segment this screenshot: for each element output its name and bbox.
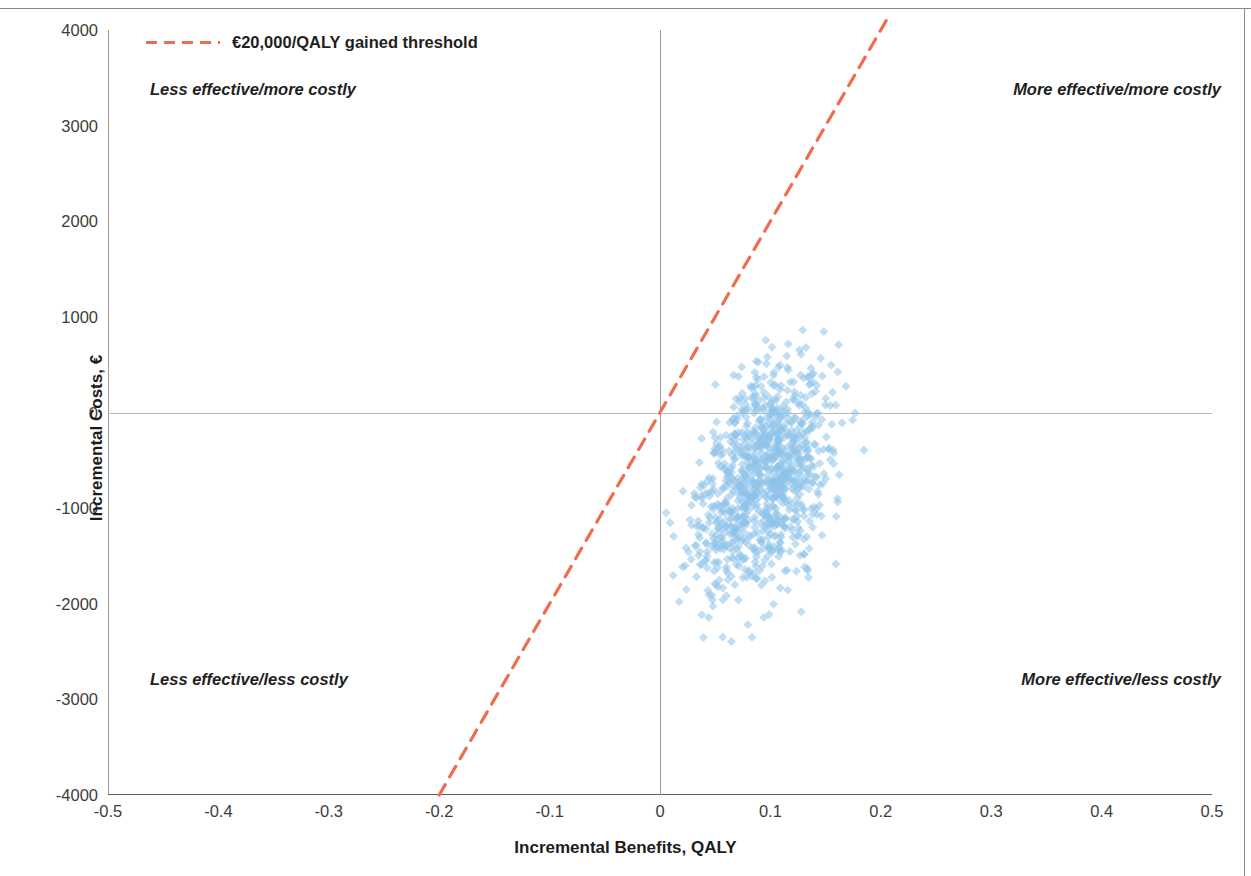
- page-frame-right-border: [1244, 8, 1245, 876]
- scatter-point: [682, 585, 691, 594]
- x-tick-label: 0.4: [1090, 802, 1113, 821]
- legend-threshold-label: €20,000/QALY gained threshold: [232, 33, 478, 52]
- legend: €20,000/QALY gained threshold: [146, 33, 478, 52]
- scatter-point: [737, 363, 746, 372]
- y-tick-label: -1000: [8, 499, 98, 518]
- y-tick-label: 4000: [8, 21, 98, 40]
- scatter-point: [832, 512, 841, 521]
- y-tick-label: 3000: [8, 116, 98, 135]
- scatter-point: [831, 560, 840, 569]
- scatter-point: [662, 508, 671, 517]
- scatter-point: [687, 501, 696, 510]
- scatter-point: [747, 633, 756, 642]
- scatter-point: [848, 416, 857, 425]
- scatter-point: [769, 600, 778, 609]
- scatter-point: [776, 584, 785, 593]
- x-tick-label: 0.1: [759, 802, 782, 821]
- scatter-point: [699, 633, 708, 642]
- scatter-point: [816, 354, 825, 363]
- scatter-point: [834, 340, 843, 349]
- scatter-point: [782, 352, 791, 361]
- y-tick-label: -2000: [8, 594, 98, 613]
- y-tick-label: 2000: [8, 212, 98, 231]
- scatter-point: [851, 409, 860, 418]
- y-tick-label: -3000: [8, 690, 98, 709]
- scatter-point: [692, 572, 701, 581]
- scatter-point: [783, 586, 792, 595]
- x-axis-title: Incremental Benefits, QALY: [0, 838, 1251, 858]
- y-tick-label: 1000: [8, 307, 98, 326]
- scatter-point: [678, 487, 687, 496]
- quadrant-label-top-left: Less effective/more costly: [150, 80, 356, 99]
- scatter-point: [818, 531, 827, 540]
- scatter-point: [669, 571, 678, 580]
- scatter-point: [727, 637, 736, 646]
- scatter-point: [797, 607, 806, 616]
- y-axis-tick-labels: -4000-3000-2000-100001000200030004000: [0, 30, 98, 795]
- scatter-point: [819, 327, 828, 336]
- x-tick-label: 0.5: [1201, 802, 1224, 821]
- x-tick-label: -0.3: [315, 802, 343, 821]
- scatter-point: [666, 518, 675, 527]
- x-tick-label: -0.4: [204, 802, 232, 821]
- scatter-point: [822, 433, 831, 442]
- x-tick-label: -0.5: [94, 802, 122, 821]
- scatter-point: [792, 567, 801, 576]
- scatter-point: [743, 620, 752, 629]
- x-tick-label: 0.2: [869, 802, 892, 821]
- scatter-point: [695, 458, 704, 467]
- scatter-point: [718, 633, 727, 642]
- scatter-point: [763, 353, 772, 362]
- x-tick-label: 0: [655, 802, 664, 821]
- scatter-point: [687, 555, 696, 564]
- page-frame-top-border: [0, 8, 1251, 9]
- scatter-point: [786, 547, 795, 556]
- x-axis-tick-labels: -0.5-0.4-0.3-0.2-0.100.10.20.30.40.5: [108, 802, 1212, 830]
- scatter-point: [730, 580, 739, 589]
- y-axis-title: Incremental Costs, €: [87, 355, 107, 521]
- scatter-point: [838, 418, 847, 427]
- scatter-point: [675, 597, 684, 606]
- quadrant-label-bottom-right: More effective/less costly: [1021, 670, 1221, 689]
- scatter-point: [827, 420, 836, 429]
- scatter-point: [831, 401, 840, 410]
- scatter-point: [818, 372, 827, 381]
- scatter-point: [711, 380, 720, 389]
- scatter-point: [784, 340, 793, 349]
- scatter-point: [697, 434, 706, 443]
- scatter-point: [734, 595, 743, 604]
- quadrant-label-top-right: More effective/more costly: [1013, 80, 1221, 99]
- scatter-point: [712, 417, 721, 426]
- scatter-point: [783, 386, 792, 395]
- scatter-point: [767, 560, 776, 569]
- scatter-point: [833, 367, 842, 376]
- cost-effectiveness-plane-figure: -4000-3000-2000-100001000200030004000 -0…: [0, 0, 1251, 876]
- x-tick-label: -0.2: [425, 802, 453, 821]
- scatter-point: [767, 343, 776, 352]
- scatter-point: [859, 445, 868, 454]
- y-tick-label: 0: [8, 403, 98, 422]
- x-tick-label: -0.1: [535, 802, 563, 821]
- y-tick-label: -4000: [8, 786, 98, 805]
- quadrant-label-bottom-left: Less effective/less costly: [150, 670, 348, 689]
- scatter-point: [804, 573, 813, 582]
- scatter-point: [805, 544, 814, 553]
- x-tick-label: 0.3: [980, 802, 1003, 821]
- scatter-point: [798, 325, 807, 334]
- scatter-point: [835, 470, 844, 479]
- scatter-point: [828, 388, 837, 397]
- scatter-point: [841, 382, 850, 391]
- scatter-point: [669, 532, 678, 541]
- scatter-point: [761, 336, 770, 345]
- threshold-line-swatch: [146, 41, 220, 44]
- scatter-point: [827, 361, 836, 370]
